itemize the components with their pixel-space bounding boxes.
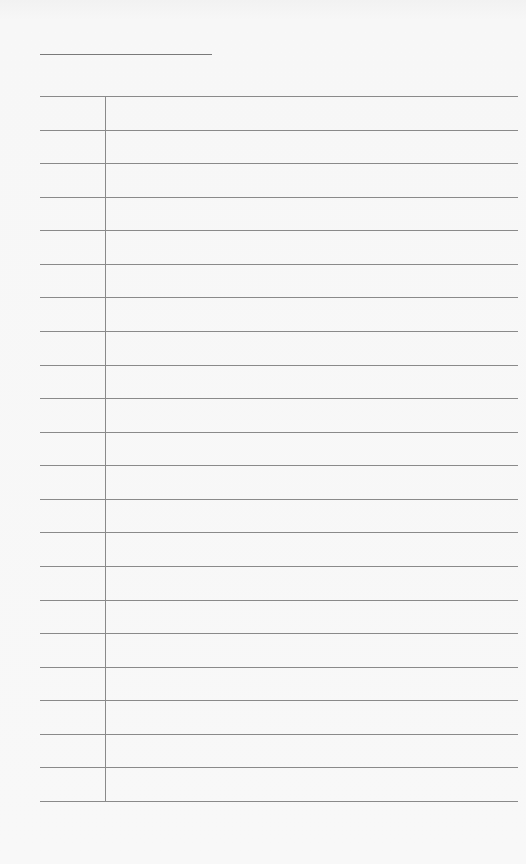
ruled-line — [40, 566, 518, 567]
ruled-line — [40, 96, 518, 97]
ruled-line — [40, 365, 518, 366]
ruled-line — [40, 532, 518, 533]
ruled-line — [40, 633, 518, 634]
ruled-line — [40, 499, 518, 500]
ruled-line — [40, 130, 518, 131]
ruled-line — [40, 600, 518, 601]
ruled-area — [40, 96, 518, 802]
ruled-line — [40, 801, 518, 802]
ruled-line — [40, 230, 518, 231]
ruled-line — [40, 667, 518, 668]
title-underline — [40, 54, 212, 55]
ruled-line — [40, 163, 518, 164]
ruled-line — [40, 264, 518, 265]
ruled-line — [40, 432, 518, 433]
notepad-page — [0, 0, 526, 864]
ruled-line — [40, 297, 518, 298]
ruled-line — [40, 465, 518, 466]
ruled-line — [40, 700, 518, 701]
ruled-line — [40, 331, 518, 332]
ruled-line — [40, 197, 518, 198]
ruled-line — [40, 398, 518, 399]
ruled-line — [40, 767, 518, 768]
margin-line — [105, 96, 106, 801]
ruled-line — [40, 734, 518, 735]
